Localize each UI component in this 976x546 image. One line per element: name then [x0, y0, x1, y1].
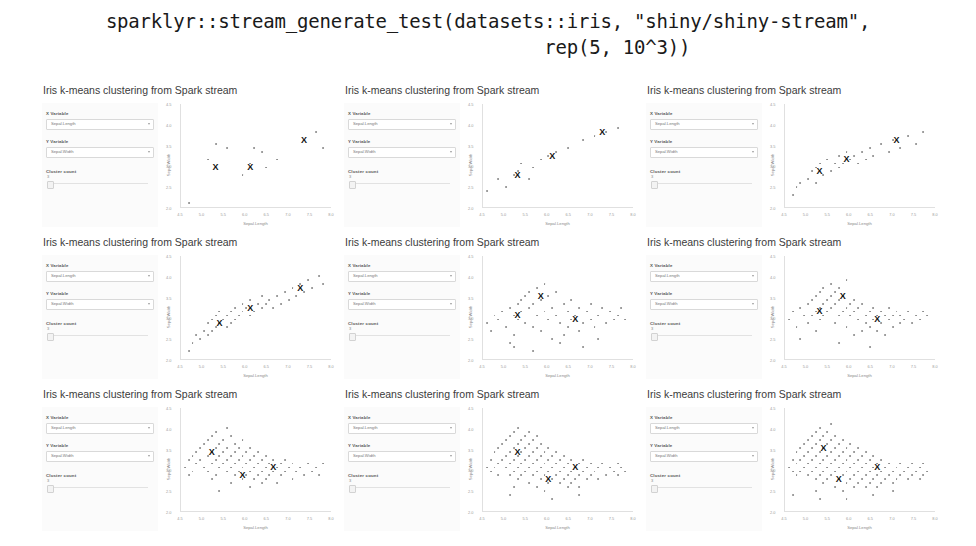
x-variable-select[interactable]: Sepal.Length	[348, 423, 456, 434]
slider-handle[interactable]	[651, 485, 658, 493]
x-variable-select[interactable]: Sepal.Length	[650, 119, 758, 130]
data-point	[888, 151, 890, 153]
y-variable-select[interactable]: Sepal.Width	[348, 299, 456, 310]
chevron-down-icon	[450, 123, 452, 125]
data-point	[853, 155, 855, 157]
shiny-app-panel: Iris k-means clustering from Spark strea…	[640, 82, 942, 230]
data-point	[249, 459, 251, 461]
data-point	[528, 482, 530, 484]
data-point	[238, 314, 240, 316]
cluster-count-slider[interactable]: 3	[348, 178, 456, 192]
panel-body: X VariableSepal.LengthY VariableSepal.Wi…	[36, 403, 338, 534]
data-point	[857, 470, 859, 472]
cluster-count-slider[interactable]: 3	[650, 330, 758, 344]
data-point	[613, 318, 615, 320]
data-point	[796, 186, 798, 188]
cluster-count-value: 3	[349, 326, 351, 331]
cluster-count-slider[interactable]: 3	[348, 330, 456, 344]
cluster-count-slider[interactable]: 3	[46, 330, 154, 344]
y-axis-tick: 4.5	[468, 406, 473, 411]
data-point	[896, 478, 898, 480]
x-variable-selected-value: Sepal.Length	[51, 273, 76, 278]
data-point	[857, 162, 859, 164]
data-point	[617, 463, 619, 465]
data-point	[597, 466, 599, 468]
data-point	[582, 139, 584, 141]
data-point	[513, 431, 515, 433]
data-point	[517, 466, 519, 468]
data-point	[796, 474, 798, 476]
data-point	[873, 155, 875, 157]
data-point	[571, 299, 573, 301]
y-variable-select[interactable]: Sepal.Width	[650, 147, 758, 158]
cluster-count-label: Cluster count	[46, 169, 154, 174]
data-point	[203, 443, 205, 445]
slider-handle[interactable]	[47, 485, 54, 493]
slider-handle[interactable]	[349, 485, 356, 493]
data-point	[911, 474, 913, 476]
y-variable-select[interactable]: Sepal.Width	[46, 451, 154, 462]
data-point	[842, 474, 844, 476]
x-variable-select[interactable]: Sepal.Length	[650, 423, 758, 434]
data-point	[826, 311, 828, 313]
data-point	[911, 463, 913, 465]
x-axis-tick: 8.0	[328, 212, 333, 217]
data-point	[299, 466, 301, 468]
data-point	[215, 459, 217, 461]
data-point	[276, 295, 278, 297]
cluster-center-marker: X	[209, 447, 215, 456]
y-axis-tick: 2.5	[468, 185, 473, 190]
data-point	[219, 490, 221, 492]
y-variable-select[interactable]: Sepal.Width	[650, 299, 758, 310]
data-point	[207, 439, 209, 441]
data-point	[226, 314, 228, 316]
data-point	[834, 459, 836, 461]
y-variable-select[interactable]: Sepal.Width	[348, 451, 456, 462]
data-point	[815, 455, 817, 457]
data-point	[265, 455, 267, 457]
slider-handle[interactable]	[47, 181, 54, 189]
y-variable-select[interactable]: Sepal.Width	[46, 299, 154, 310]
data-point	[528, 466, 530, 468]
data-point	[242, 455, 244, 457]
slider-handle[interactable]	[349, 333, 356, 341]
slider-handle[interactable]	[47, 333, 54, 341]
x-variable-select[interactable]: Sepal.Length	[650, 271, 758, 282]
sidebar-panel: X VariableSepal.LengthY VariableSepal.Wi…	[42, 407, 158, 531]
data-point	[811, 299, 813, 301]
x-variable-label: X Variable	[348, 415, 456, 420]
cluster-count-slider[interactable]: 3	[46, 178, 154, 192]
y-variable-select[interactable]: Sepal.Width	[348, 147, 456, 158]
slider-handle[interactable]	[651, 181, 658, 189]
x-variable-select[interactable]: Sepal.Length	[348, 271, 456, 282]
x-axis-tick: 7.0	[587, 364, 592, 369]
x-variable-select[interactable]: Sepal.Length	[46, 119, 154, 130]
slider-handle[interactable]	[651, 333, 658, 341]
plot-area: XXX	[482, 256, 633, 360]
x-variable-select[interactable]: Sepal.Length	[46, 271, 154, 282]
y-axis-tick: 4.5	[770, 406, 775, 411]
chevron-down-icon	[148, 455, 150, 457]
y-variable-select[interactable]: Sepal.Width	[650, 451, 758, 462]
cluster-count-slider[interactable]: 3	[650, 178, 758, 192]
x-axis-tick: 5.0	[501, 516, 506, 521]
cluster-count-slider[interactable]: 3	[650, 482, 758, 496]
cluster-count-slider[interactable]: 3	[348, 482, 456, 496]
data-point	[823, 287, 825, 289]
data-point	[880, 482, 882, 484]
y-axis-tick: 3.5	[166, 143, 171, 148]
data-point	[869, 482, 871, 484]
x-variable-select[interactable]: Sepal.Length	[46, 423, 154, 434]
y-variable-select[interactable]: Sepal.Width	[46, 147, 154, 158]
data-point	[907, 466, 909, 468]
x-axis-label: Sepal.Length	[482, 525, 633, 530]
panel-body: X VariableSepal.LengthY VariableSepal.Wi…	[338, 403, 640, 534]
y-variable-selected-value: Sepal.Width	[51, 453, 74, 458]
x-variable-select[interactable]: Sepal.Length	[348, 119, 456, 130]
slider-handle[interactable]	[349, 181, 356, 189]
data-point	[211, 435, 213, 437]
x-variable-label: X Variable	[650, 111, 758, 116]
cluster-count-slider[interactable]: 3	[46, 482, 154, 496]
data-point	[819, 427, 821, 429]
data-point	[540, 466, 542, 468]
